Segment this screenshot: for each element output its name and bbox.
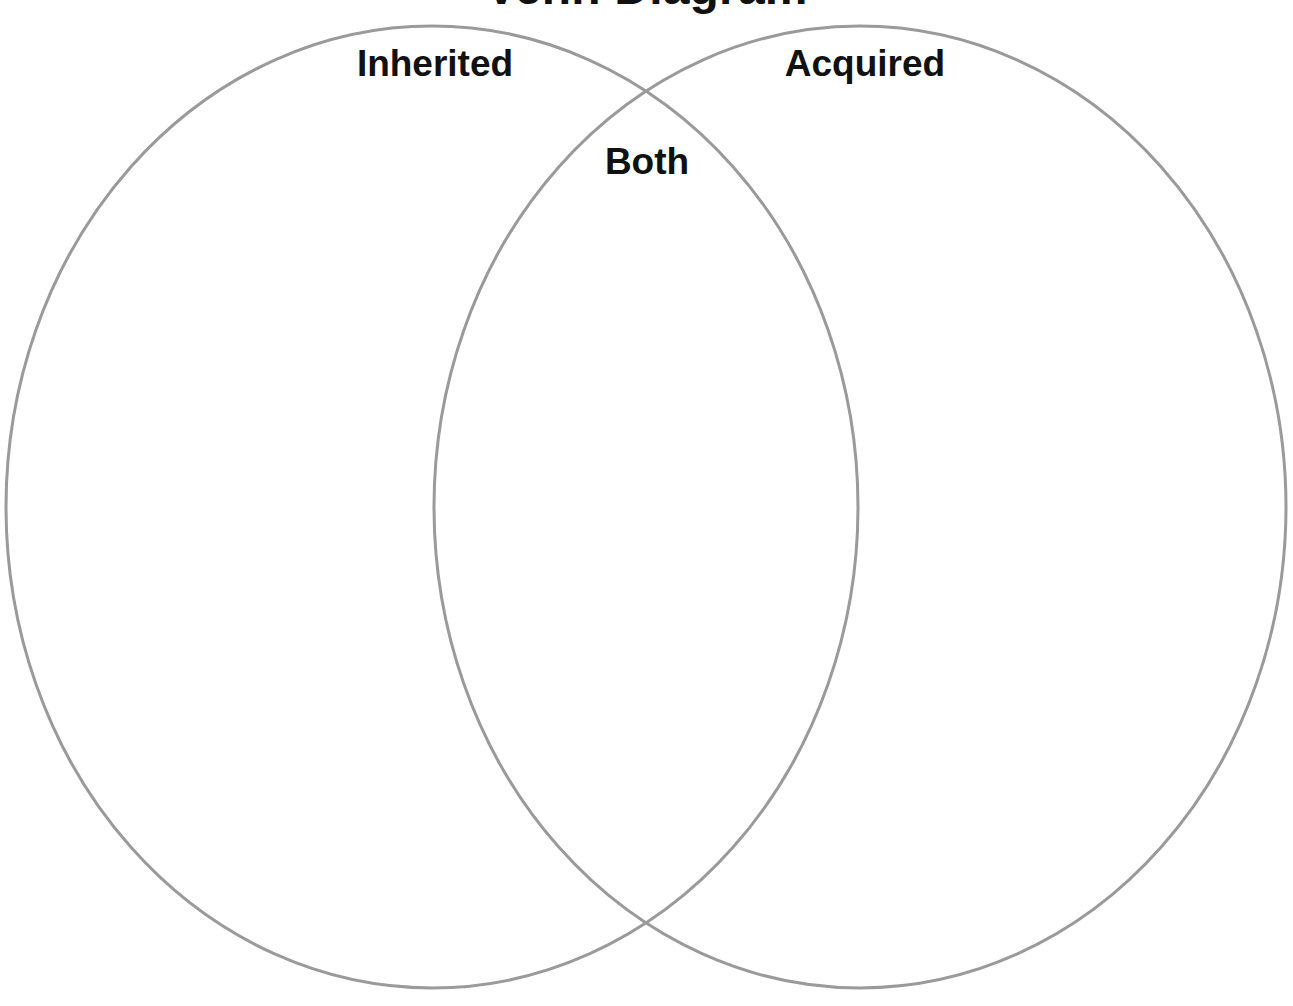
venn-label-left: Inherited — [275, 43, 595, 85]
venn-label-right: Acquired — [705, 43, 1025, 85]
venn-diagram-page: Venn Diagram Inherited Acquired Both — [0, 0, 1293, 1006]
venn-label-overlap: Both — [527, 141, 767, 183]
